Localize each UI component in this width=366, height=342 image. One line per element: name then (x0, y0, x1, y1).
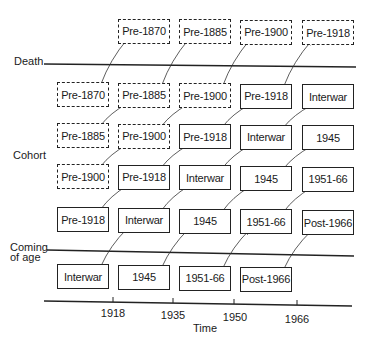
cohort-box: Pre-1885 (118, 83, 170, 108)
death-label: Death (14, 55, 43, 67)
time-axis-label: Time (193, 322, 217, 334)
cohort-box: Pre-1885 (179, 19, 231, 44)
cohort-box: Interwar (57, 264, 109, 289)
coming-of-age-label-line2: of age (10, 251, 41, 263)
cohort-box: Pre-1900 (57, 164, 109, 189)
cohort-box: Pre-1918 (118, 165, 170, 190)
cohort-diagram: Death Cohort Coming of age Time 1918 193… (0, 0, 366, 342)
cohort-box: Pre-1900 (118, 124, 170, 149)
cohort-box: Pre-1870 (118, 19, 170, 44)
cohort-arrow (162, 40, 188, 84)
cohort-arrow (223, 41, 249, 85)
cohort-arrow (284, 41, 311, 85)
tick-label-1950: 1950 (223, 311, 247, 323)
tick-label-1918: 1918 (101, 307, 125, 319)
tick-label-1966: 1966 (285, 313, 309, 325)
cohort-arrow (101, 40, 127, 84)
cohort-box: Interwar (302, 84, 354, 109)
time-axis (44, 301, 352, 306)
cohort-box: Pre-1900 (179, 83, 231, 108)
cohort-arrow (223, 230, 249, 267)
cohort-arrow (101, 229, 127, 266)
cohort-box: Pre-1900 (240, 20, 292, 45)
death-line (44, 64, 356, 67)
cohort-box: 1945 (302, 125, 354, 150)
cohort-label: Cohort (13, 149, 46, 161)
cohort-box: Post-1966 (240, 267, 292, 292)
cohort-box: Post-1966 (302, 210, 354, 235)
cohort-box: Interwar (179, 165, 231, 190)
cohort-box: 1951-66 (302, 167, 354, 192)
cohort-box: Pre-1918 (302, 20, 354, 45)
cohort-box: 1945 (240, 166, 292, 191)
cohort-box: Pre-1885 (57, 123, 109, 148)
coming-of-age-line (47, 250, 354, 256)
cohort-box: Pre-1870 (57, 82, 109, 107)
cohort-box: 1951-66 (179, 266, 231, 291)
cohort-arrow (284, 231, 311, 269)
cohort-box: 1945 (179, 209, 231, 234)
tick-label-1935: 1935 (161, 309, 185, 321)
cohort-box: Pre-1918 (57, 207, 109, 232)
cohort-box: Pre-1918 (179, 124, 231, 149)
cohort-box: 1951-66 (240, 209, 292, 234)
cohort-box: Interwar (118, 208, 170, 233)
cohort-box: Pre-1918 (240, 84, 292, 109)
cohort-box: 1945 (118, 265, 170, 290)
cohort-arrow (162, 230, 188, 267)
cohort-box: Interwar (240, 125, 292, 150)
